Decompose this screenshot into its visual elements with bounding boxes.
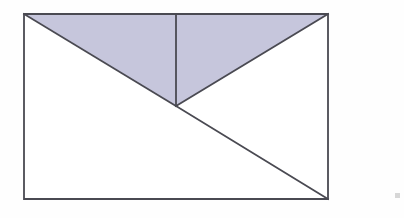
scan-speck bbox=[395, 193, 400, 198]
figure-canvas bbox=[0, 0, 404, 218]
geometry-figure bbox=[0, 0, 404, 218]
